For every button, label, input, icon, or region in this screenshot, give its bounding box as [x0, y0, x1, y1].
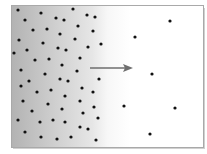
particle-dot: [63, 94, 66, 97]
particle-dot: [62, 18, 65, 21]
particle-dot: [86, 127, 89, 130]
particle-dot: [168, 19, 171, 22]
particle-dot: [91, 29, 94, 32]
particle-dot: [122, 104, 125, 107]
particle-dot: [96, 116, 99, 119]
particle-dot: [91, 90, 94, 93]
particle-dot: [41, 41, 44, 44]
particle-dot: [94, 138, 97, 141]
particle-dot: [78, 99, 81, 102]
particle-dot: [38, 120, 41, 123]
particle-dot: [16, 8, 19, 11]
particle-dot: [150, 72, 153, 75]
particle-dot: [47, 57, 50, 60]
particle-dot: [69, 135, 72, 138]
particle-dot: [19, 84, 22, 87]
particle-dot: [51, 118, 54, 121]
particle-dot: [71, 7, 74, 10]
particle-dot: [97, 77, 100, 80]
particle-dot: [16, 118, 19, 121]
particle-dot: [66, 79, 69, 82]
particle-dot: [173, 106, 176, 109]
particle-dot: [81, 111, 84, 114]
particle-dot: [31, 28, 34, 31]
particle-dot: [75, 69, 78, 72]
particle-dot: [35, 90, 38, 93]
particle-dot: [99, 42, 102, 45]
particle-dot: [30, 109, 33, 112]
particle-dot: [55, 137, 58, 140]
particle-dot: [43, 72, 46, 75]
particle-dot: [17, 38, 20, 41]
particle-dot: [93, 15, 96, 18]
particle-dot: [39, 11, 42, 14]
particle-dot: [19, 68, 22, 71]
particle-dot: [60, 63, 63, 66]
particle-dot: [148, 132, 151, 135]
particle-dot: [63, 120, 66, 123]
particle-dot: [49, 88, 52, 91]
particle-dot: [76, 24, 79, 27]
particle-dot: [33, 58, 36, 61]
particle-dot: [12, 51, 15, 54]
low-concentration-particles: [122, 19, 176, 135]
particle-dot: [85, 13, 88, 16]
diffusion-direction-arrow-icon: [90, 64, 133, 72]
particle-dot: [23, 130, 26, 133]
particle-dot: [80, 86, 83, 89]
particle-dot: [23, 18, 26, 21]
particle-dot: [78, 56, 81, 59]
particle-dot: [78, 125, 81, 128]
particle-dot: [58, 77, 61, 80]
high-concentration-particles: [12, 7, 102, 141]
particle-dot: [73, 37, 76, 40]
particle-dot: [46, 102, 49, 105]
particle-dot: [133, 35, 136, 38]
particle-dot: [25, 48, 28, 51]
particle-dot: [56, 46, 59, 49]
particle-dot: [21, 99, 24, 102]
particle-dot: [58, 32, 61, 35]
particle-dot: [27, 79, 30, 82]
particle-dot: [39, 135, 42, 138]
particle-dot: [86, 45, 89, 48]
particle-dot: [92, 105, 95, 108]
particle-dot: [54, 16, 57, 19]
particle-dot: [64, 48, 67, 51]
diffusion-diagram: [0, 0, 207, 154]
particle-dot: [45, 27, 48, 30]
particle-dot: [60, 107, 63, 110]
